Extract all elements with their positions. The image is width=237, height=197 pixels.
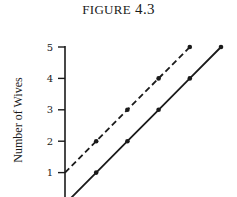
series-line-solid xyxy=(71,47,221,197)
y-tick-label: 4 xyxy=(47,73,53,84)
y-axis-ticks: 12345 xyxy=(47,42,65,179)
y-tick-label: 1 xyxy=(47,167,53,178)
y-tick-label: 2 xyxy=(47,136,53,147)
data-point xyxy=(219,45,224,50)
data-series xyxy=(65,45,223,197)
data-point xyxy=(125,108,130,113)
line-chart: 12345 xyxy=(0,0,237,197)
data-point xyxy=(94,139,99,144)
data-point xyxy=(94,170,99,175)
data-point xyxy=(125,139,130,144)
data-point xyxy=(188,76,193,81)
y-tick-label: 3 xyxy=(47,104,53,115)
data-point xyxy=(156,108,161,113)
data-point xyxy=(188,45,193,50)
data-point xyxy=(156,76,161,81)
y-tick-label: 5 xyxy=(47,42,53,53)
